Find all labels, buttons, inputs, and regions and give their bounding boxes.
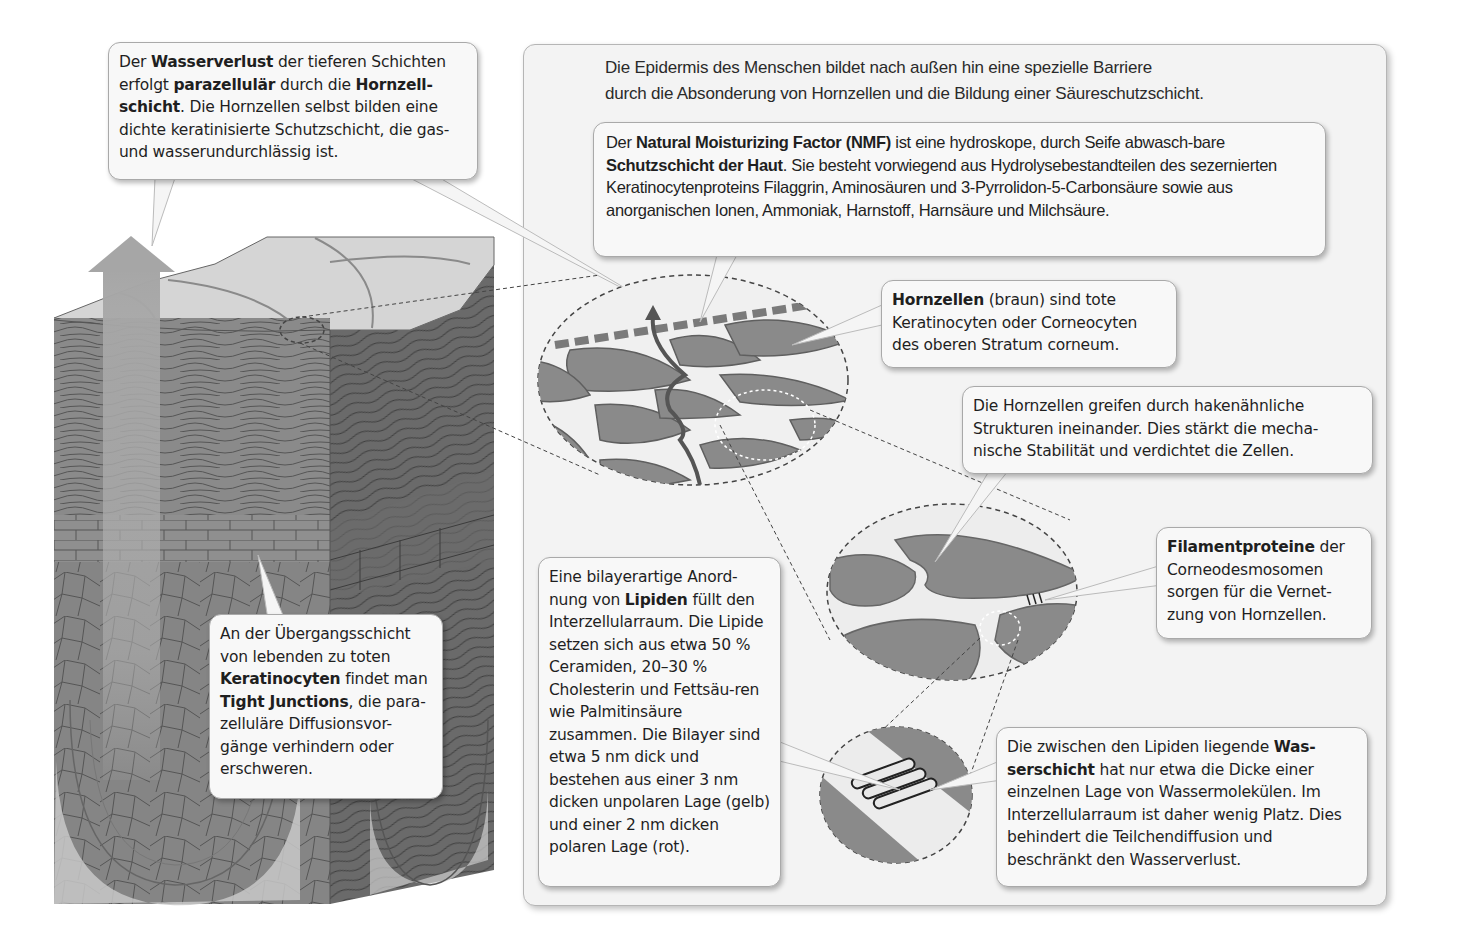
callout-lipide: Eine bilayerartige Anord-nung von Lipide… xyxy=(538,557,781,887)
callout-wasserschicht: Die zwischen den Lipiden liegende Was-se… xyxy=(996,727,1368,887)
callout-nmf: Der Natural Moisturizing Factor (NMF) is… xyxy=(593,122,1326,257)
callout-filament: Filamentproteine der Corneodesmosomen so… xyxy=(1156,527,1372,639)
callout-wasserverlust: Der Wasserverlust der tieferen Schichten… xyxy=(108,42,478,180)
callout-hornzellen: Hornzellen (braun) sind tote Keratinocyt… xyxy=(881,280,1177,368)
cube-side-face xyxy=(330,265,494,904)
callout-haken: Die Hornzellen greifen durch hakenähnlic… xyxy=(962,386,1373,474)
cube-front-face xyxy=(54,318,330,904)
pointer-wasserverlust-arrow xyxy=(152,178,175,246)
callout-tight-junctions: An der Übergangsschicht von lebenden zu … xyxy=(209,614,443,799)
